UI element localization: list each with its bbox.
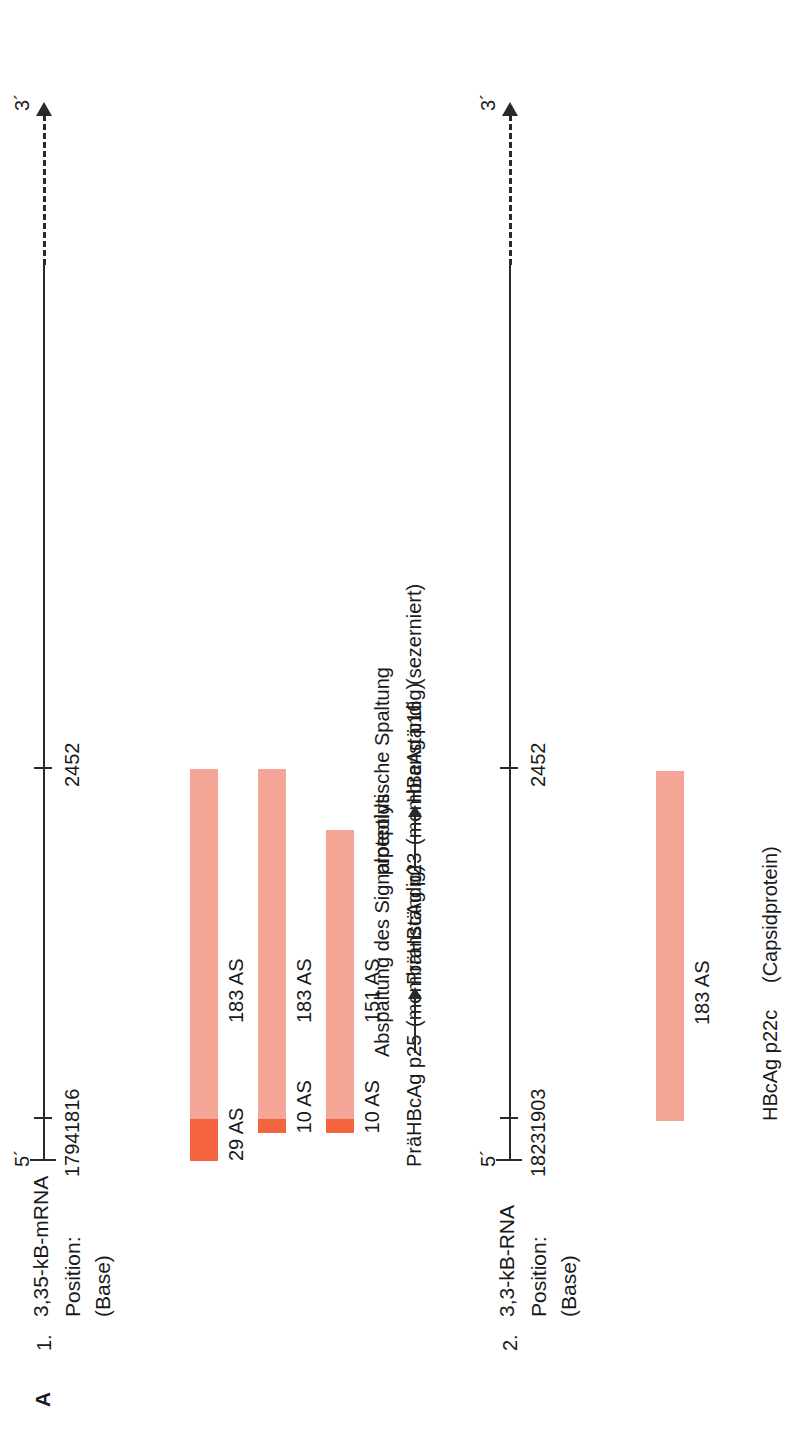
panel-1-tick-2452 [34,767,52,769]
panel-1-product-2-bar [258,769,286,1133]
panel-2-transcript-name: 3,3-kB-RNA [496,1205,517,1317]
panel-1-transcript-name: 3,35-kB-mRNA [30,1176,51,1317]
panel-1-product-2-light-label: 183 AS [294,958,314,1023]
panel-1-tick-1816-label: 1816 [62,1089,82,1134]
panel-1-number: 1. [34,1334,54,1351]
panel-1-process-arrow-2-head [408,805,422,817]
panel-2-axis-dashed [509,115,512,265]
panel-1-product-1-core-segment [190,769,218,1119]
panel-2-number: 2. [500,1334,520,1351]
panel-1-axis-arrowhead [36,102,52,116]
rotated-figure-wrapper: A 1. 3,35-kB-mRNA Position: (Base) 5´ 3´… [0,0,810,1429]
panel-1-product-1-dark-label: 29 AS [226,1108,246,1161]
panel-letter-a: A [32,1392,53,1407]
panel-1-product-1-light-label: 183 AS [226,958,246,1023]
panel-2-position-label: Position: [528,1236,549,1317]
panel-1-tick-1816 [34,1117,52,1119]
panel-2-product-1-annotation: (Capsidprotein) [760,846,780,983]
panel-1-tick-2452-label: 2452 [62,743,82,788]
panel-1-three-prime-label: 3´ [12,93,32,111]
panel-1-product-2-signal-segment [258,1119,286,1133]
panel-1-product-3-dark-label: 10 AS [362,1080,382,1133]
panel-1-product-3-signal-segment [326,1119,354,1133]
panel-1-product-3-core-segment [326,830,354,1119]
panel-1-position-label: Position: [62,1236,83,1317]
panel-2-product-1-light-label: 183 AS [692,960,712,1025]
panel-2-tick-1903 [500,1117,518,1119]
panel-1-process-arrow-1-head [408,987,422,999]
panel-2-product-1-protein-name: HBcAg p22c [760,1010,780,1121]
panel-1-product-1-bar [190,769,218,1161]
panel-1-process-step-2-label: proteolytische Spaltung [372,667,392,875]
panel-1-tick-1794 [30,1159,56,1161]
panel-2-five-prime-label: 5´ [478,1149,498,1167]
panel-2-product-1-core-segment [656,771,684,1121]
panel-1-process-arrow-1-line [414,997,416,1053]
panel-1-product-1-signal-segment [190,1119,218,1161]
panel-1-five-prime-label: 5´ [12,1149,32,1167]
panel-1-axis-line [43,261,45,1161]
panel-1-position-unit: (Base) [92,1255,113,1317]
panel-1-product-2-protein-name: PräHBcAg p23 [404,853,424,985]
panel-1-product-3-protein-name: HBeAg p16 [404,701,424,803]
panel-1-process-arrow-2-line [414,815,416,871]
panel-1-product-3-bar [326,830,354,1133]
panel-1-product-1-protein-name: PräHBcAg p25 [404,1035,424,1167]
panel-2-tick-1823 [496,1159,522,1161]
panel-1-axis-dashed [43,115,46,265]
panel-1-product-2-dark-label: 10 AS [294,1080,314,1133]
panel-2-axis-arrowhead [502,102,518,116]
panel-2-position-unit: (Base) [558,1255,579,1317]
panel-2-tick-2452 [500,767,518,769]
panel-2-tick-1903-label: 1903 [528,1089,548,1134]
figure-canvas: A 1. 3,35-kB-mRNA Position: (Base) 5´ 3´… [0,0,810,1429]
panel-1-product-2-core-segment [258,769,286,1119]
panel-2-tick-2452-label: 2452 [528,743,548,788]
panel-2-product-1-bar [656,771,684,1121]
panel-2-tick-1823-label: 1823 [528,1133,548,1178]
panel-1-tick-1794-label: 1794 [62,1133,82,1178]
panel-1-product-3-annotation: (sezerniert) [404,584,424,685]
panel-2-three-prime-label: 3´ [478,93,498,111]
panel-2-axis-line [509,261,511,1161]
